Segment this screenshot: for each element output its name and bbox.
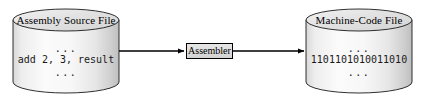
- source-file-code-line: add 2, 3, result: [13, 55, 119, 65]
- diagram-canvas: Assembly Source File ... add 2, 3, resul…: [0, 0, 423, 102]
- source-file-ellipsis-top: ...: [13, 44, 119, 54]
- source-file-ellipsis-bottom: ...: [13, 68, 119, 78]
- machine-code-file-code-line: 1101101010011010: [306, 55, 412, 65]
- assembler-box-label: Assembler: [188, 46, 231, 56]
- machine-code-file-ellipsis-top: ...: [306, 44, 412, 54]
- assembler-box[interactable]: Assembler: [186, 43, 233, 59]
- machine-code-file-ellipsis-bottom: ...: [306, 68, 412, 78]
- source-file-title: Assembly Source File: [13, 14, 119, 26]
- machine-code-file-title: Machine-Code File: [306, 14, 412, 26]
